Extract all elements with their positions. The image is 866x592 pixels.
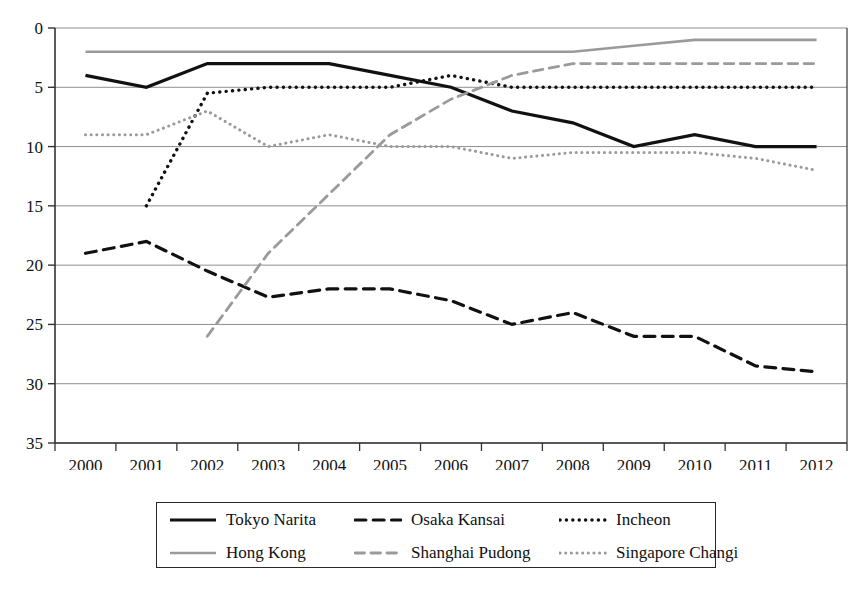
legend-item-hong-kong[interactable]: Hong Kong: [169, 544, 354, 561]
x-axis-tick-label: 2001: [129, 456, 163, 470]
x-axis-tick-label: 2009: [617, 456, 651, 470]
legend-item-shanghai-pudong[interactable]: Shanghai Pudong: [354, 544, 559, 561]
y-axis-tick-label: 20: [26, 256, 43, 275]
series-line-tokyo-narita: [85, 64, 816, 147]
legend-swatch-incheon: [559, 513, 607, 527]
y-axis-tick-label: 15: [26, 197, 43, 216]
legend-swatch-hong-kong: [169, 546, 217, 560]
legend-item-incheon[interactable]: Incheon: [559, 511, 729, 528]
legend-label-tokyo-narita: Tokyo Narita: [226, 511, 316, 528]
x-axis-tick-label: 2012: [800, 456, 834, 470]
y-axis-tick-label: 25: [26, 315, 43, 334]
x-axis-tick-label: 2006: [434, 456, 468, 470]
x-axis-tick-label: 2008: [556, 456, 590, 470]
legend-swatch-osaka-kansai: [354, 513, 402, 527]
legend-label-osaka-kansai: Osaka Kansai: [411, 511, 505, 528]
x-axis-tick-label: 2007: [495, 456, 530, 470]
chart-legend: Tokyo Narita Osaka Kansai Incheon Hong K…: [156, 502, 716, 568]
x-axis-tick-label: 2002: [190, 456, 224, 470]
legend-label-shanghai-pudong: Shanghai Pudong: [411, 544, 530, 561]
legend-item-tokyo-narita[interactable]: Tokyo Narita: [169, 511, 354, 528]
x-axis-tick-label: 2005: [373, 456, 407, 470]
series-line-hong-kong: [85, 40, 816, 52]
legend-item-osaka-kansai[interactable]: Osaka Kansai: [354, 511, 559, 528]
y-axis-tick-label: 30: [26, 375, 43, 394]
chart-plot-area: 0510152025303520002001200220032004200520…: [0, 0, 866, 470]
legend-label-hong-kong: Hong Kong: [226, 544, 306, 561]
legend-label-incheon: Incheon: [616, 511, 671, 528]
series-line-incheon: [146, 75, 816, 205]
legend-swatch-tokyo-narita: [169, 513, 217, 527]
series-line-shanghai-pudong: [207, 64, 816, 337]
series-line-osaka-kansai: [85, 241, 816, 371]
y-axis-tick-label: 35: [26, 434, 43, 453]
legend-item-singapore-changi[interactable]: Singapore Changi: [559, 544, 729, 561]
x-axis-tick-label: 2003: [251, 456, 285, 470]
x-axis-tick-label: 2011: [739, 456, 772, 470]
y-axis-tick-label: 0: [35, 19, 44, 38]
legend-label-singapore-changi: Singapore Changi: [616, 544, 738, 561]
chart-page: 0510152025303520002001200220032004200520…: [0, 0, 866, 592]
legend-swatch-shanghai-pudong: [354, 546, 402, 560]
x-axis-tick-label: 2004: [312, 456, 347, 470]
y-axis-tick-label: 5: [35, 78, 44, 97]
x-axis-tick-label: 2000: [68, 456, 102, 470]
series-line-singapore-changi: [85, 111, 816, 170]
legend-swatch-singapore-changi: [559, 546, 607, 560]
line-chart-svg: 0510152025303520002001200220032004200520…: [0, 0, 866, 470]
y-axis-tick-label: 10: [26, 138, 43, 157]
x-axis-tick-label: 2010: [678, 456, 712, 470]
